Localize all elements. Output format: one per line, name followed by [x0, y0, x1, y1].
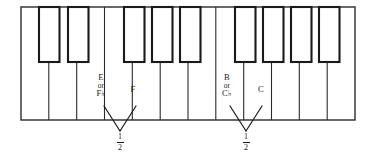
interval-fraction-left-numerator: 1	[110, 133, 130, 142]
interval-fraction-left: 1 2	[110, 133, 130, 152]
key-label-c-line-1: C	[251, 85, 271, 94]
black-key-3	[124, 7, 145, 62]
black-key-8	[291, 7, 312, 62]
black-key-7	[263, 7, 284, 62]
key-label-b-or-cb-line-3: C♭	[212, 89, 242, 98]
interval-fraction-right-numerator: 1	[236, 133, 256, 142]
interval-fraction-right: 1 2	[236, 133, 256, 152]
interval-fraction-right-denominator: 2	[236, 144, 256, 153]
key-label-e-or-fb-line-3: F♭	[86, 89, 116, 98]
black-key-5	[180, 7, 201, 62]
key-label-f-line-1: F	[123, 85, 143, 94]
black-keys	[39, 7, 340, 62]
key-label-e-or-fb: E or F♭	[86, 73, 116, 98]
key-label-f: F	[123, 85, 143, 94]
black-key-2	[68, 7, 89, 62]
black-key-4	[152, 7, 173, 62]
black-key-9	[319, 7, 340, 62]
key-label-c: C	[251, 85, 271, 94]
interval-fraction-left-denominator: 2	[110, 144, 130, 153]
keyboard-diagram-svg	[0, 0, 371, 164]
piano-keyboard-figure: E or F♭ F B or C♭ C 1 2 1 2	[0, 0, 371, 164]
key-label-b-or-cb: B or C♭	[212, 73, 242, 98]
black-key-1	[39, 7, 60, 62]
black-key-6	[235, 7, 256, 62]
